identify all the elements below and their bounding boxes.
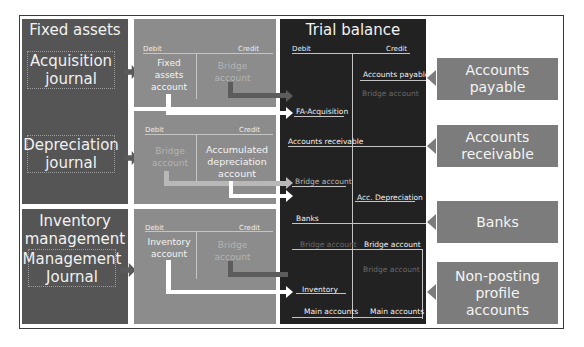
pipe-inventory-v	[166, 260, 171, 294]
tb-acc-depreciation-line	[355, 201, 415, 202]
accounts-payable-box: Accounts payable	[437, 58, 558, 100]
trial-balance-t-vline	[352, 53, 353, 319]
arrow-non-posting-icon	[427, 284, 436, 300]
arrow-accounts-payable-icon	[427, 70, 436, 86]
arrow-bridge-acquisition-icon	[286, 90, 293, 102]
depreciation-bridge-account: Bridge account	[145, 145, 195, 169]
inventory-account: Inventory account	[143, 236, 195, 260]
trial-balance-credit-label: Credit	[386, 45, 407, 53]
arrow-inventory-icon	[286, 286, 293, 298]
depreciation-bridge-line1: Bridge	[145, 145, 195, 157]
management-journal: Management Journal	[28, 249, 116, 287]
fixed-assets-account-line2: assets	[143, 69, 195, 81]
tb-bridge-credit: Bridge account	[364, 240, 421, 249]
non-posting-line1: Non-posting profile	[437, 268, 558, 302]
non-posting-line2: accounts	[466, 302, 529, 319]
tb-bridge-account-line	[292, 186, 346, 187]
depreciation-credit-label: Credit	[239, 126, 260, 134]
tb-main-accounts-line	[292, 317, 422, 318]
acquisition-t-vline	[196, 53, 197, 99]
acquisition-journal-line1: Acquisition	[30, 52, 112, 70]
trial-balance-t-hline	[292, 53, 410, 54]
tb-bridge-faint-2: Bridge account	[363, 265, 420, 274]
tb-banks-line	[292, 223, 426, 224]
acquisition-journal: Acquisition journal	[27, 51, 115, 89]
depreciation-t-hline	[145, 134, 273, 135]
accumulated-depreciation-account: Accumulated depreciation account	[199, 144, 275, 180]
trial-balance-panel	[280, 19, 426, 324]
inventory-t-vline	[196, 231, 197, 279]
tb-bridge-faint-debit: Bridge account	[300, 240, 357, 249]
tb-bridge-account: Bridge account	[295, 177, 352, 186]
inventory-t-hline	[145, 231, 273, 232]
inventory-account-line2: account	[143, 248, 195, 260]
depreciation-journal-line2: journal	[45, 154, 97, 172]
tb-inventory-line	[296, 293, 346, 294]
arrow-accounts-receivable-icon	[427, 138, 436, 154]
trial-balance-title: Trial balance	[280, 22, 426, 39]
depreciation-journal-line1: Depreciation	[23, 136, 119, 154]
acquisition-credit-label: Credit	[238, 45, 259, 53]
fixed-assets-account-line3: account	[143, 81, 195, 93]
banks-box: Banks	[437, 201, 558, 243]
arrow-fa-acquisition-icon	[286, 107, 293, 119]
depreciation-t-vline	[196, 134, 197, 182]
arrow-bridge-depreciation-icon	[286, 177, 293, 189]
non-posting-profile-box: Non-posting profile accounts	[437, 262, 558, 324]
pipe-bridge-acquisition-h	[228, 93, 288, 98]
acquisition-journal-line2: journal	[45, 70, 97, 88]
pipe-acc-depreciation-h	[229, 194, 288, 198]
tb-accounts-receivable: Accounts receivable	[288, 137, 363, 146]
accumulated-line3: account	[199, 168, 275, 180]
trial-balance-debit-label: Debit	[292, 45, 311, 53]
tb-fa-acquisition: FA-Acquisition	[296, 107, 348, 116]
tb-fa-acquisition-line	[294, 116, 344, 117]
acquisition-t-hline	[143, 53, 273, 54]
inventory-bridge-account: Bridge account	[205, 239, 260, 263]
fixed-assets-title: Fixed assets	[22, 22, 128, 39]
inventory-account-line1: Inventory	[143, 236, 195, 248]
pipe-bridge-inventory-h	[228, 272, 288, 277]
tb-main-accounts-credit: Main accounts	[370, 307, 424, 316]
tb-bridge-section-line	[292, 249, 422, 250]
acquisition-debit-label: Debit	[143, 45, 162, 53]
management-journal-line2: Journal	[46, 268, 98, 286]
tb-bridge-faint-1: Bridge account	[362, 89, 419, 98]
pipe-inventory-h	[166, 290, 288, 294]
accounts-receivable-box: Accounts receivable	[437, 125, 558, 167]
tb-main-accounts-debit: Main accounts	[304, 307, 358, 316]
tb-accounts-receivable-line	[288, 146, 426, 147]
acquisition-bridge-line1: Bridge	[205, 60, 260, 72]
inventory-management-title-line1: Inventory	[22, 212, 128, 230]
acquisition-bridge-account: Bridge account	[205, 60, 260, 84]
depreciation-debit-label: Debit	[145, 126, 164, 134]
inventory-management-title: Inventory management	[22, 212, 128, 248]
fixed-assets-panel	[22, 19, 128, 204]
tb-accounts-payable-line	[360, 80, 426, 81]
tb-banks: Banks	[296, 214, 319, 223]
management-journal-line1: Management	[23, 250, 122, 268]
fixed-assets-account-line1: Fixed	[143, 57, 195, 69]
accumulated-line1: Accumulated	[199, 144, 275, 156]
depreciation-journal: Depreciation journal	[27, 135, 115, 173]
fixed-assets-account: Fixed assets account	[143, 57, 195, 93]
depreciation-bridge-line2: account	[145, 157, 195, 169]
pipe-fixed-assets-h	[166, 111, 288, 115]
tb-accounts-payable: Accounts payable	[363, 70, 429, 79]
arrow-banks-icon	[427, 214, 436, 230]
arrow-acc-depreciation-icon	[286, 190, 293, 202]
inventory-management-title-line2: management	[22, 230, 128, 248]
pipe-bridge-depreciation-h	[164, 181, 288, 186]
accumulated-line2: depreciation	[199, 156, 275, 168]
inventory-bridge-line1: Bridge	[205, 239, 260, 251]
